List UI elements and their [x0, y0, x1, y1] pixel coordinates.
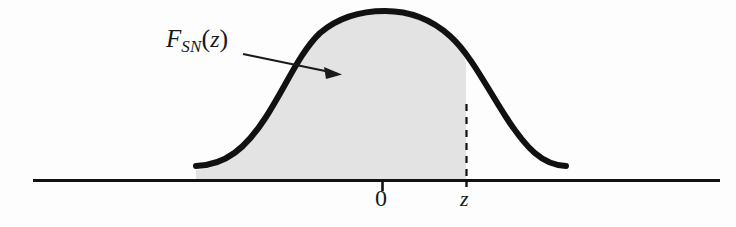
axis-tick-label-origin: 0: [375, 186, 387, 210]
curve-label: FSN(z): [166, 26, 228, 55]
curve-label-subscript: SN: [181, 37, 201, 56]
curve-label-argument: z: [210, 26, 219, 52]
distribution-diagram-svg: [0, 0, 736, 227]
curve-label-close-paren: ): [220, 24, 229, 53]
curve-label-base: F: [166, 25, 181, 52]
figure-container: FSN(z) 0 z: [0, 0, 736, 227]
axis-tick-label-z: z: [460, 188, 469, 210]
curve-label-open-paren: (: [202, 24, 211, 53]
